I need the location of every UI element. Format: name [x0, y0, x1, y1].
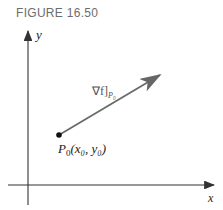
point-label: P0(x₀, y₀) — [58, 141, 106, 158]
diagram-canvas — [0, 0, 223, 210]
gradient-label: ∇f]P₀ — [92, 84, 116, 100]
y-axis-label: y — [36, 27, 42, 43]
x-axis-label: x — [208, 191, 213, 206]
point-p0 — [56, 132, 62, 138]
